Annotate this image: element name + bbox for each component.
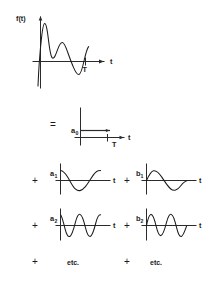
a1-subscript: 1 [55,173,58,179]
figure-canvas: f(t) T t = a 0 T t + [0,0,218,286]
a1-coefficient-label: a 1 [50,169,58,179]
b2-subscript: 2 [141,218,144,224]
panel-a0 [75,108,124,145]
panel-ft [33,16,104,88]
b1-subscript: 1 [141,173,144,179]
a2-subscript: 2 [55,218,58,224]
ft-label: f(t) [16,14,26,23]
a0-period-label: T [112,140,117,149]
plus-operator-b2: + [124,220,130,231]
ft-period-label: T [83,65,88,74]
plus-operator-etc-right: + [124,256,130,267]
panel-b2 [142,209,196,240]
a0-coefficient-label: a 0 [71,126,79,136]
b1-axis-label-t: t [199,176,202,185]
plus-operator-etc-left: + [32,256,38,267]
plus-operator-a1: + [32,175,38,186]
plus-operator-a2: + [32,220,38,231]
b2-coefficient-label: b 2 [136,214,144,224]
plus-operator-b1: + [124,175,130,186]
fourier-series-figure: f(t) T t = a 0 T t + [0,0,218,286]
panel-a1 [56,164,110,194]
ft-vertical-arrow [39,16,43,21]
a1-axis-label-t: t [113,176,116,185]
a2-coefficient-label: a 2 [50,214,58,224]
ft-waveform-curve [38,23,89,86]
etc-label-left: etc. [67,259,79,266]
panel-b1 [142,164,196,194]
ft-axis-arrow [99,60,104,64]
equals-operator: = [50,119,56,130]
panel-a2 [56,209,110,240]
b2-axis-label-t: t [199,221,202,230]
a0-axis-arrow [120,136,125,139]
a0-axis-label-t: t [128,133,131,142]
a0-constant-arrow [106,129,110,132]
b1-coefficient-label: b 1 [136,169,144,179]
etc-label-right: etc. [150,259,162,266]
a2-axis-label-t: t [113,221,116,230]
a0-subscript: 0 [76,130,79,136]
ft-axis-label-t: t [110,57,113,66]
